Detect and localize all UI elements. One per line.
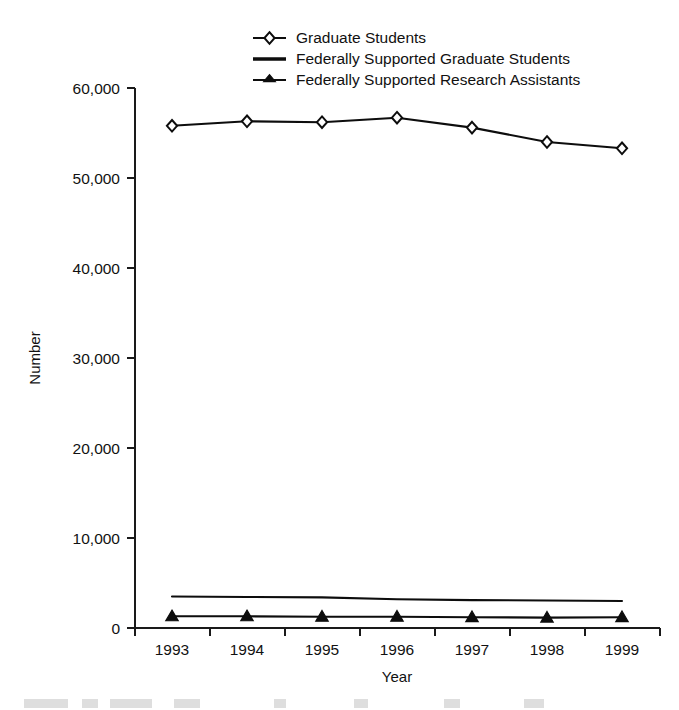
y-tick-label-50000: 50,000: [73, 170, 121, 187]
y-tick-label-10000: 10,000: [73, 530, 121, 547]
data-point-diamond: [542, 136, 552, 148]
x-tick-label-1993: 1993: [155, 641, 189, 658]
legend-label-1: Federally Supported Graduate Students: [296, 50, 570, 67]
y-tick-label-20000: 20,000: [73, 440, 121, 457]
triangle-filled-icon: [264, 75, 276, 82]
data-point-diamond: [167, 120, 177, 132]
y-tick-label-60000: 60,000: [73, 80, 121, 97]
series-line-federally-supported-graduate-students: [172, 597, 622, 602]
legend-label-2: Federally Supported Research Assistants: [296, 71, 581, 88]
x-axis-title: Year: [382, 668, 412, 685]
y-tick-label-30000: 30,000: [73, 350, 121, 367]
chart-figure: Graduate Students Federally Supported Gr…: [0, 0, 679, 710]
page-edge-artifact: [24, 699, 584, 708]
diamond-open-icon: [264, 32, 274, 44]
data-point-diamond: [467, 122, 477, 134]
x-tick-label-1999: 1999: [605, 641, 639, 658]
legend-entry-federally-supported-research-assistants: Federally Supported Research Assistants: [253, 71, 581, 88]
y-tick-label-0: 0: [111, 620, 120, 637]
line-chart: Graduate Students Federally Supported Gr…: [0, 0, 679, 710]
series-markers: [166, 112, 628, 622]
data-point-diamond: [242, 116, 252, 128]
chart-legend: Graduate Students Federally Supported Gr…: [253, 29, 581, 88]
legend-label-0: Graduate Students: [296, 29, 426, 46]
y-tick-label-40000: 40,000: [73, 260, 121, 277]
x-tick-label-1997: 1997: [455, 641, 489, 658]
data-point-diamond: [617, 143, 627, 155]
plot-area: [166, 112, 628, 622]
x-tick-label-1998: 1998: [530, 641, 564, 658]
data-point-diamond: [392, 112, 402, 124]
legend-entry-graduate-students: Graduate Students: [253, 29, 426, 46]
x-tick-label-1996: 1996: [380, 641, 414, 658]
x-axis: 1993 1994 1995 1996 1997 1998 1999 Year: [135, 628, 660, 685]
y-axis-title: Number: [26, 331, 43, 384]
data-point-diamond: [317, 116, 327, 128]
legend-entry-federally-supported-graduate-students: Federally Supported Graduate Students: [253, 50, 570, 67]
x-tick-label-1994: 1994: [230, 641, 265, 658]
x-tick-label-1995: 1995: [305, 641, 339, 658]
y-axis: 60,000 50,000 40,000 30,000 20,000 10,00…: [26, 80, 135, 637]
